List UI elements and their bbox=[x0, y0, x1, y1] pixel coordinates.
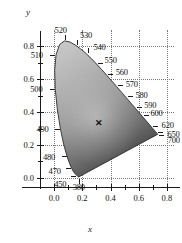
wavelength-tick bbox=[108, 74, 113, 75]
x-tick-label: 0.8 bbox=[155, 193, 179, 203]
y-tick-major bbox=[37, 46, 44, 47]
y-tick-label: 0.0 bbox=[12, 173, 34, 183]
wavelength-label-540: 540 bbox=[94, 42, 106, 52]
wavelength-label-550: 550 bbox=[105, 55, 117, 65]
x-tick-minor bbox=[125, 185, 126, 190]
wavelength-label-700: 700 bbox=[168, 135, 180, 145]
wavelength-tick bbox=[153, 126, 158, 127]
wavelength-tick bbox=[88, 48, 89, 53]
x-tick-major bbox=[82, 184, 83, 191]
x-tick-label: 0.2 bbox=[70, 193, 94, 203]
wavelength-label-570: 570 bbox=[126, 79, 138, 89]
wavelength-tick bbox=[50, 55, 55, 56]
y-axis-title: y bbox=[26, 7, 30, 17]
wavelength-tick bbox=[159, 135, 164, 136]
y-tick-label: 0.2 bbox=[12, 140, 34, 150]
wavelength-tick bbox=[77, 40, 78, 45]
wavelength-tick bbox=[137, 107, 142, 108]
wavelength-tick bbox=[128, 96, 133, 97]
y-tick-major bbox=[37, 79, 44, 80]
x-tick-major bbox=[139, 184, 140, 191]
wavelength-label-580: 580 bbox=[135, 90, 147, 100]
y-tick-label: 0.4 bbox=[12, 107, 34, 117]
x-axis-title: x bbox=[88, 224, 92, 234]
y-tick-minor bbox=[38, 161, 43, 162]
wavelength-label-560: 560 bbox=[116, 67, 128, 77]
y-tick-minor bbox=[38, 96, 43, 97]
wavelength-label-520: 520 bbox=[55, 25, 67, 35]
wavelength-label-450: 450 bbox=[54, 179, 66, 189]
wavelength-tick bbox=[62, 156, 67, 157]
y-tick-minor bbox=[38, 129, 43, 130]
y-tick-major bbox=[37, 112, 44, 113]
wavelength-label-470: 470 bbox=[49, 166, 61, 176]
wavelength-tick bbox=[158, 132, 163, 133]
wavelength-tick bbox=[118, 85, 123, 86]
wavelength-tick bbox=[65, 35, 66, 40]
x-tick-major bbox=[111, 184, 112, 191]
wavelength-tick bbox=[98, 63, 103, 64]
wavelength-label-600: 600 bbox=[151, 108, 163, 118]
chromaticity-diagram-figure: y x 520530540550560570580590600620650700… bbox=[0, 0, 182, 243]
y-tick-major bbox=[37, 145, 44, 146]
x-tick-minor bbox=[96, 185, 97, 190]
plot-area: 5205305405505605705805906006206507005105… bbox=[40, 30, 174, 186]
white-point-marker: ✕ bbox=[95, 119, 103, 128]
x-tick-major bbox=[167, 184, 168, 191]
x-axis-spine bbox=[22, 187, 180, 188]
wavelength-tick bbox=[66, 168, 71, 169]
wavelength-label-530: 530 bbox=[80, 30, 92, 40]
y-tick-label: 0.8 bbox=[12, 41, 34, 51]
x-tick-minor bbox=[68, 185, 69, 190]
x-tick-label: 0.6 bbox=[127, 193, 151, 203]
wavelength-label-480: 480 bbox=[43, 152, 55, 162]
wavelength-tick bbox=[71, 176, 76, 177]
wavelength-tick bbox=[50, 89, 55, 90]
wavelength-tick bbox=[55, 129, 60, 130]
x-tick-label: 0.0 bbox=[42, 193, 66, 203]
x-tick-major bbox=[54, 184, 55, 191]
x-tick-label: 0.4 bbox=[99, 193, 123, 203]
y-tick-major bbox=[37, 178, 44, 179]
wavelength-label-500: 500 bbox=[30, 84, 42, 94]
y-tick-label: 0.6 bbox=[12, 74, 34, 84]
x-tick-minor bbox=[153, 185, 154, 190]
wavelength-tick bbox=[144, 115, 149, 116]
y-tick-minor bbox=[38, 63, 43, 64]
